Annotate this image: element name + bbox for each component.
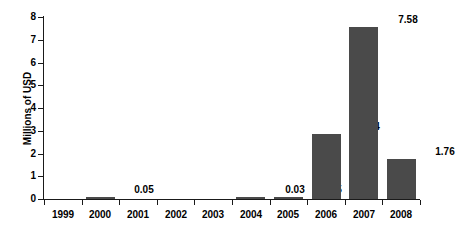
y-axis-tick-label: 4 <box>22 103 36 113</box>
bar-value-label: 1.76 <box>422 146 460 157</box>
bar <box>86 197 115 199</box>
y-axis-tick-label: 5 <box>22 80 36 90</box>
y-axis-tick-label: 7 <box>22 35 36 45</box>
y-axis-tick-label: 3 <box>22 126 36 136</box>
x-axis-tick-label: 2008 <box>379 209 423 220</box>
x-axis-tick <box>82 200 83 205</box>
y-axis-tick-label: 2 <box>22 149 36 159</box>
x-axis-tick <box>345 200 346 205</box>
x-axis-tick <box>382 200 383 205</box>
bar <box>349 27 378 199</box>
x-axis-tick <box>420 200 421 205</box>
bar <box>236 197 265 199</box>
y-axis-tick-label: 0 <box>22 194 36 204</box>
y-axis-tick-label: 8 <box>22 12 36 22</box>
x-axis-tick <box>44 200 45 205</box>
bar <box>387 159 416 199</box>
x-axis-tick <box>119 200 120 205</box>
bars-layer: 0.050.030.052.847.581.76 <box>44 17 420 199</box>
x-axis-tick <box>307 200 308 205</box>
x-axis-tick <box>157 200 158 205</box>
bar-value-label: 7.58 <box>385 14 431 25</box>
x-axis-tick <box>270 200 271 205</box>
y-axis-tick-label: 1 <box>22 171 36 181</box>
bar <box>312 134 341 199</box>
y-axis-tick-label: 6 <box>22 58 36 68</box>
x-axis-tick <box>194 200 195 205</box>
bar <box>274 197 303 199</box>
x-axis-tick <box>232 200 233 205</box>
bar-value-label: 0.05 <box>121 184 167 195</box>
